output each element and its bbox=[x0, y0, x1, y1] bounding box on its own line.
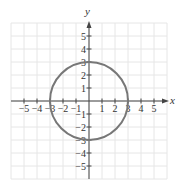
y-tick-label: 1 bbox=[81, 83, 86, 94]
coordinate-plane: −5−4−3−2−112345−5−4−3−2−112345 x y bbox=[0, 0, 180, 189]
y-tick-label: 2 bbox=[81, 70, 86, 81]
y-tick-label: −2 bbox=[75, 122, 86, 133]
x-axis-arrow-icon bbox=[162, 99, 169, 104]
y-axis-arrow-icon bbox=[87, 21, 92, 28]
x-tick-label: 5 bbox=[152, 103, 157, 114]
x-axis-label: x bbox=[169, 94, 175, 106]
y-tick-label: 4 bbox=[81, 44, 86, 55]
x-tick-label: 4 bbox=[139, 103, 144, 114]
x-tick-label: −5 bbox=[19, 103, 30, 114]
x-tick-label: −4 bbox=[32, 103, 43, 114]
x-tick-label: 2 bbox=[113, 103, 118, 114]
x-tick-label: −2 bbox=[58, 103, 69, 114]
y-tick-label: −1 bbox=[75, 109, 86, 120]
x-tick-label: 1 bbox=[100, 103, 105, 114]
y-tick-label: −4 bbox=[75, 148, 86, 159]
y-tick-label: −5 bbox=[75, 161, 86, 172]
axes bbox=[11, 21, 169, 179]
y-tick-label: 5 bbox=[81, 31, 86, 42]
y-axis-label: y bbox=[84, 5, 90, 17]
